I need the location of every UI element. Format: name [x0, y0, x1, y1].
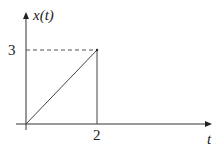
- x-axis-label: t: [207, 131, 212, 147]
- x-tick-label: 2: [93, 127, 101, 143]
- x-axis-arrow-icon: [205, 121, 212, 127]
- y-tick-label: 3: [8, 42, 16, 58]
- ramp-segment: [26, 50, 97, 124]
- peak-point: [96, 49, 98, 51]
- signal-plot: x(t) 3 2 t: [0, 0, 223, 147]
- y-axis-label: x(t): [32, 7, 54, 24]
- y-axis-arrow-icon: [23, 12, 29, 19]
